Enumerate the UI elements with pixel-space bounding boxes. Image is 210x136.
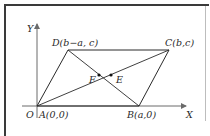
diagonal-bd bbox=[68, 50, 139, 106]
point-e-label: E bbox=[115, 74, 123, 85]
vertex-d-label: D(b−a, c) bbox=[51, 37, 98, 48]
vertex-a-label: A(0,0) bbox=[38, 109, 69, 120]
point-f-label: F bbox=[88, 74, 96, 85]
x-axis-label: X bbox=[185, 109, 194, 120]
y-axis-label: Y bbox=[27, 23, 35, 34]
vertex-b-label: B(a,0) bbox=[126, 109, 156, 120]
origin-label: O bbox=[26, 109, 34, 120]
vertex-c-label: C(b,c) bbox=[165, 37, 194, 48]
point-f-dot bbox=[97, 73, 100, 76]
point-e-dot bbox=[109, 73, 112, 76]
parallelogram-diagram: Y X O A(0,0) B(a,0) C(b,c) D(b−a, c) F E bbox=[0, 0, 210, 136]
